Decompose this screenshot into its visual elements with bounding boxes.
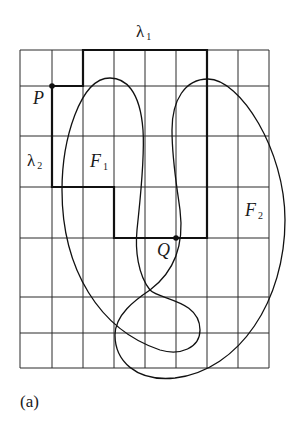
f1-subscript: 1: [103, 161, 108, 172]
label-p: P: [33, 88, 44, 109]
lambda1-symbol: λ: [136, 22, 144, 41]
figure-caption: (a): [20, 392, 39, 412]
lambda-path: [52, 50, 207, 238]
grid: [20, 50, 269, 368]
f2-subscript: 2: [258, 210, 263, 221]
label-lambda1: λ1: [136, 22, 151, 42]
lambda1-subscript: 1: [146, 31, 151, 42]
p-label-text: P: [33, 88, 44, 108]
label-q: Q: [157, 240, 170, 261]
label-f2: F2: [245, 200, 263, 221]
label-f1: F1: [90, 151, 108, 172]
f2-label-text: F: [245, 200, 256, 220]
label-lambda2: λ2: [27, 151, 42, 171]
lambda2-subscript: 2: [37, 160, 42, 171]
point-p: [49, 83, 55, 89]
point-q: [173, 235, 179, 241]
lambda2-symbol: λ: [27, 151, 35, 170]
f1-label-text: F: [90, 151, 101, 171]
q-label-text: Q: [157, 240, 170, 260]
